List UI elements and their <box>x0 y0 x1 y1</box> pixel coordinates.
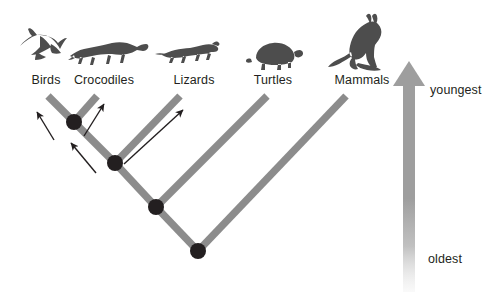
arrow-to-node1 <box>71 143 96 173</box>
arrow-to-birds <box>37 112 54 140</box>
bird-silhouette <box>20 28 67 60</box>
branch-node3-node4 <box>156 207 198 251</box>
animal-silhouettes <box>20 14 381 71</box>
taxon-label-mammals: Mammals <box>335 73 390 87</box>
tree-canvas <box>0 0 485 303</box>
turtle-silhouette <box>246 43 303 70</box>
node-root-amniotes <box>190 243 206 259</box>
taxon-label-crocodiles: Crocodiles <box>74 73 134 87</box>
phylogenetic-tree-diagram: Birds Crocodiles Lizards Turtles Mammals… <box>0 0 485 303</box>
branch-node1-node2 <box>74 122 115 163</box>
branch-node2-node3 <box>115 163 156 207</box>
tree-branches <box>48 96 346 251</box>
taxon-label-lizards: Lizards <box>174 73 215 87</box>
crocodile-silhouette <box>68 42 148 65</box>
time-axis-label-youngest: youngest <box>430 83 482 97</box>
taxon-label-turtles: Turtles <box>254 73 292 87</box>
time-arrow-head <box>393 61 425 86</box>
node-birds-crocodiles <box>66 114 82 130</box>
kangaroo-silhouette <box>328 14 381 71</box>
time-arrow-shaft <box>403 84 415 292</box>
branch-mammals <box>198 96 346 251</box>
node-reptiles-turtles <box>148 199 164 215</box>
branch-lizards <box>115 96 180 163</box>
time-arrow <box>393 61 425 292</box>
branch-turtles <box>156 96 267 207</box>
time-axis-label-oldest: oldest <box>428 252 462 266</box>
taxon-label-birds: Birds <box>32 73 61 87</box>
node-archosaurs-lizards <box>107 155 123 171</box>
lizard-silhouette <box>155 42 220 63</box>
